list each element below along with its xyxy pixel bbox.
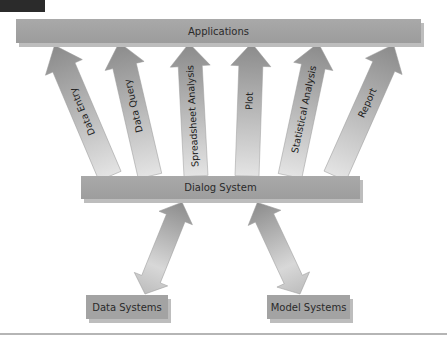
bottom-divider [0,333,447,335]
model-systems-box: Model Systems [267,295,350,319]
data-systems-label: Data Systems [92,302,162,313]
arrow-statistical-analysis: Statistical Analysis [270,39,337,180]
applications-label: Applications [188,26,249,37]
arrow-spreadsheet-analysis: Spreadsheet Analysis [169,42,216,177]
arrows-layer: Data Entry Data Query Spreadsheet Analys… [0,0,447,348]
arrow-report: Report [317,36,412,184]
model-systems-label: Model Systems [271,302,347,313]
double-arrow-model-systems [241,195,316,302]
applications-bar: Applications [16,19,421,43]
data-systems-box: Data Systems [86,295,168,319]
arrow-plot: Plot [227,42,272,176]
double-arrow-data-systems [128,195,198,300]
dialog-system-label: Dialog System [184,182,256,193]
arrow-label-plot: Plot [243,92,255,111]
dialog-system-bar: Dialog System [81,176,360,199]
